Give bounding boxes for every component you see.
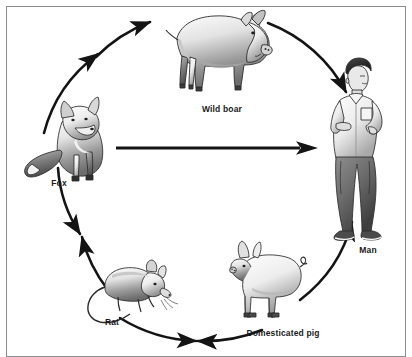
figure-container: Wild boar Man Domesticated pig Rat Fox	[0, 0, 412, 357]
rat-illustration	[88, 260, 178, 323]
node-label-man: Man	[359, 245, 376, 255]
node-label-rat: Rat	[105, 317, 119, 327]
node-label-domesticated-pig: Domesticated pig	[246, 328, 319, 338]
node-label-fox: Fox	[51, 178, 67, 188]
boar-illustration	[166, 10, 272, 91]
man-illustration	[331, 58, 382, 240]
node-label-wild-boar: Wild boar	[202, 104, 242, 114]
fox-illustration	[25, 97, 103, 181]
pig-illustration	[230, 241, 307, 317]
